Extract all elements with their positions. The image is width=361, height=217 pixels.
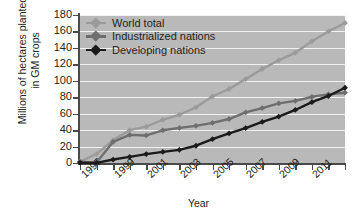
legend-marker-icon bbox=[86, 17, 106, 29]
series-line bbox=[80, 93, 345, 163]
legend-marker-icon bbox=[86, 30, 106, 42]
legend-item-2: Developing nations bbox=[86, 43, 215, 57]
data-point-marker bbox=[143, 133, 149, 139]
gm-crops-line-chart: Millions of hectares planted in GM crops… bbox=[0, 0, 361, 217]
data-point-marker bbox=[226, 131, 232, 137]
data-point-marker bbox=[176, 125, 182, 131]
data-point-marker bbox=[276, 100, 282, 106]
data-point-marker bbox=[193, 123, 199, 129]
data-point-marker bbox=[176, 147, 182, 153]
legend-item-1: Industrialized nations bbox=[86, 30, 215, 44]
legend-label: Industrialized nations bbox=[112, 30, 215, 42]
data-point-marker bbox=[160, 127, 166, 133]
legend-label: Developing nations bbox=[112, 44, 206, 56]
data-point-marker bbox=[292, 98, 298, 104]
data-point-marker bbox=[110, 157, 116, 163]
data-point-marker bbox=[342, 90, 348, 96]
legend-marker-icon bbox=[86, 44, 106, 56]
chart-legend: World totalIndustrialized nationsDevelop… bbox=[86, 16, 215, 57]
legend-item-0: World total bbox=[86, 16, 215, 30]
data-point-marker bbox=[309, 94, 315, 100]
data-point-marker bbox=[210, 120, 216, 126]
legend-label: World total bbox=[112, 17, 164, 29]
x-axis-title: Year bbox=[0, 197, 361, 209]
series-industrialized-nations bbox=[77, 90, 348, 166]
data-point-marker bbox=[160, 149, 166, 155]
data-point-marker bbox=[127, 154, 133, 160]
data-point-marker bbox=[143, 151, 149, 157]
data-point-marker bbox=[259, 105, 265, 111]
